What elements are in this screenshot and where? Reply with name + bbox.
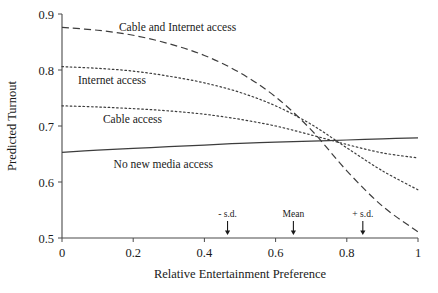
marker-label-2: + s.d. bbox=[352, 209, 373, 219]
y-tick-label: 0.5 bbox=[38, 232, 54, 246]
x-tick-label: 0.2 bbox=[125, 246, 141, 260]
y-tick-label: 0.9 bbox=[38, 8, 54, 22]
chart-series-lines bbox=[62, 27, 418, 231]
series-line-3 bbox=[62, 138, 418, 153]
x-tick-label: 0.6 bbox=[268, 246, 284, 260]
y-axis-title: Predicted Turnout bbox=[5, 81, 19, 171]
marker-arrowhead-1 bbox=[291, 231, 296, 236]
x-tick-label: 0.8 bbox=[339, 246, 355, 260]
predicted-turnout-chart: 0.50.60.70.80.900.20.40.60.81Relative En… bbox=[0, 0, 438, 293]
x-tick-label: 0 bbox=[59, 246, 65, 260]
x-axis-title: Relative Entertainment Preference bbox=[154, 267, 327, 281]
series-label-3: No new media access bbox=[114, 158, 214, 170]
marker-arrowhead-0 bbox=[225, 231, 230, 236]
y-tick-label: 0.7 bbox=[38, 120, 54, 134]
series-label-0: Cable and Internet access bbox=[119, 21, 237, 33]
y-tick-label: 0.6 bbox=[38, 176, 54, 190]
chart-canvas: 0.50.60.70.80.900.20.40.60.81Relative En… bbox=[0, 0, 438, 293]
marker-label-1: Mean bbox=[283, 209, 305, 219]
chart-sd-markers bbox=[225, 221, 365, 235]
y-tick-label: 0.8 bbox=[38, 64, 54, 78]
x-tick-label: 1 bbox=[415, 246, 421, 260]
marker-arrowhead-2 bbox=[360, 231, 365, 236]
series-line-0 bbox=[62, 27, 418, 231]
x-tick-label: 0.4 bbox=[197, 246, 213, 260]
series-label-1: Internet access bbox=[78, 74, 147, 86]
marker-label-0: - s.d. bbox=[218, 209, 237, 219]
chart-axes bbox=[58, 14, 418, 242]
series-label-2: Cable access bbox=[103, 113, 163, 125]
